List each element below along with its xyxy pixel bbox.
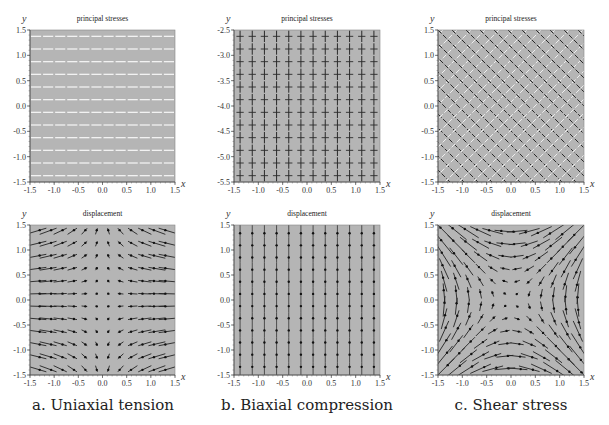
x-tick-label: 0.0 [98, 379, 108, 388]
x-tick-label: -1.0 [252, 186, 265, 195]
x-tick-label: 1.0 [555, 379, 565, 388]
y-tick-label: 0.0 [16, 102, 26, 111]
x-tick-label: -0.5 [480, 379, 493, 388]
y-axis-label: y [429, 208, 435, 219]
x-tick-label: 1.5 [579, 186, 589, 195]
y-tick-label: -1.5 [13, 178, 26, 187]
x-tick-label: -1.5 [228, 379, 241, 388]
x-axis-label: x [385, 178, 391, 189]
x-tick-label: 1.5 [170, 186, 180, 195]
x-tick-label: -1.0 [48, 186, 61, 195]
x-tick-label: 0.5 [326, 379, 336, 388]
y-tick-label: 0.5 [220, 271, 230, 280]
y-axis-label: y [429, 13, 435, 24]
y-tick-label: -1.0 [421, 153, 434, 162]
x-axis-label: x [180, 178, 186, 189]
y-tick-label: -1.0 [13, 346, 26, 355]
y-tick-label: 1.5 [424, 26, 434, 35]
x-tick-label: -0.5 [480, 186, 493, 195]
y-tick-label: 1.0 [424, 51, 434, 60]
x-axis-label: x [589, 371, 595, 382]
y-tick-label: -1.5 [13, 371, 26, 380]
plot-c-disp: -1.5-1.0-0.50.00.51.01.5-1.5-1.0-0.50.00… [421, 208, 595, 388]
x-tick-label: 0.5 [122, 186, 132, 195]
x-axis-label: x [180, 371, 186, 382]
y-tick-label: -2.5 [217, 26, 230, 35]
x-tick-label: 0.0 [302, 379, 312, 388]
plot-title: displacement [83, 209, 123, 218]
plot-title: principal stresses [77, 14, 129, 23]
y-tick-label: 0.0 [424, 296, 434, 305]
y-tick-label: 0.0 [16, 296, 26, 305]
x-tick-label: 0.5 [326, 186, 336, 195]
x-axis-label: x [385, 371, 391, 382]
x-tick-label: -1.5 [24, 186, 37, 195]
y-tick-label: 1.0 [424, 246, 434, 255]
plot-a-stress: -1.5-1.0-0.50.00.51.01.5-1.5-1.0-0.50.00… [13, 13, 186, 195]
y-tick-label: 1.0 [16, 246, 26, 255]
y-tick-label: 0.0 [220, 296, 230, 305]
x-tick-label: 1.5 [375, 186, 385, 195]
x-tick-label: 1.0 [351, 186, 361, 195]
x-tick-label: 0.0 [302, 186, 312, 195]
y-axis-label: y [21, 13, 27, 24]
x-tick-label: 1.5 [579, 379, 589, 388]
x-tick-label: 0.5 [530, 379, 540, 388]
x-axis-label: x [589, 178, 595, 189]
y-tick-label: -4.0 [217, 102, 230, 111]
y-tick-label: -1.0 [13, 153, 26, 162]
x-tick-label: 1.0 [146, 186, 156, 195]
plot-a-disp: -1.5-1.0-0.50.00.51.01.5-1.5-1.0-0.50.00… [13, 208, 186, 388]
y-tick-label: -3.5 [217, 77, 230, 86]
plot-title: principal stresses [281, 14, 333, 23]
y-tick-label: -1.5 [217, 371, 230, 380]
y-tick-label: 1.0 [16, 51, 26, 60]
x-tick-label: -1.5 [432, 379, 445, 388]
y-tick-label: -1.5 [421, 371, 434, 380]
x-tick-label: -1.5 [228, 186, 241, 195]
caption-biaxial-compression: b. Biaxial compression [207, 396, 407, 414]
y-tick-label: -0.5 [421, 127, 434, 136]
y-tick-label: 0.5 [16, 77, 26, 86]
plot-b-stress: -1.5-1.0-0.50.00.51.01.5-5.5-5.0-4.5-4.0… [217, 13, 391, 195]
y-tick-label: 0.5 [424, 77, 434, 86]
y-tick-label: -4.5 [217, 127, 230, 136]
y-tick-label: -0.5 [421, 321, 434, 330]
x-tick-label: -1.0 [456, 379, 469, 388]
x-tick-label: -1.0 [456, 186, 469, 195]
plot-title: displacement [491, 209, 531, 218]
y-tick-label: -0.5 [13, 127, 26, 136]
x-tick-label: -0.5 [276, 186, 289, 195]
figure-canvas: -1.5-1.0-0.50.00.51.01.5-1.5-1.0-0.50.00… [0, 0, 609, 425]
y-tick-label: 1.5 [16, 221, 26, 230]
plot-title: displacement [287, 209, 327, 218]
y-tick-label: 1.5 [16, 26, 26, 35]
x-tick-label: 1.5 [170, 379, 180, 388]
x-tick-label: -1.0 [252, 379, 265, 388]
y-tick-label: -0.5 [13, 321, 26, 330]
caption-uniaxial-tension: a. Uniaxial tension [3, 396, 203, 414]
y-tick-label: -3.0 [217, 51, 230, 60]
x-tick-label: -0.5 [72, 379, 85, 388]
plot-title: principal stresses [485, 14, 537, 23]
caption-shear-stress: c. Shear stress [411, 396, 609, 414]
x-tick-label: -0.5 [276, 379, 289, 388]
y-tick-label: -5.0 [217, 153, 230, 162]
y-tick-label: -0.5 [217, 321, 230, 330]
y-tick-label: 0.0 [424, 102, 434, 111]
x-tick-label: 0.0 [98, 186, 108, 195]
y-tick-label: 1.0 [220, 246, 230, 255]
plot-b-disp: -1.5-1.0-0.50.00.51.01.5-1.5-1.0-0.50.00… [217, 208, 391, 388]
x-tick-label: 0.5 [122, 379, 132, 388]
y-axis-label: y [225, 208, 231, 219]
x-tick-label: 1.5 [375, 379, 385, 388]
x-tick-label: 1.0 [146, 379, 156, 388]
x-tick-label: 0.5 [530, 186, 540, 195]
y-tick-label: 1.5 [220, 221, 230, 230]
y-tick-label: -1.5 [421, 178, 434, 187]
x-tick-label: 0.0 [506, 186, 516, 195]
y-tick-label: 1.5 [424, 221, 434, 230]
y-tick-label: -1.0 [217, 346, 230, 355]
y-tick-label: -5.5 [217, 178, 230, 187]
y-tick-label: 0.5 [16, 271, 26, 280]
